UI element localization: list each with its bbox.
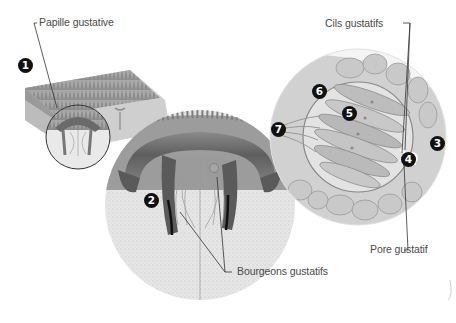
- marker-3: 3: [430, 136, 445, 151]
- label-cils-gustatifs: Cils gustatifs: [325, 17, 383, 29]
- marker-7: 7: [271, 122, 286, 137]
- label-bourgeons-gustatifs: Bourgeons gustatifs: [237, 265, 328, 277]
- marker-4: 4: [401, 152, 416, 167]
- label-pore-gustatif: Pore gustatif: [370, 243, 428, 255]
- marker-1: 1: [18, 58, 33, 73]
- taste-bud-cross-section: [270, 49, 450, 233]
- diagram-illustration: [0, 0, 456, 323]
- marker-2: 2: [144, 193, 159, 208]
- label-papille-gustative: Papille gustative: [39, 16, 114, 28]
- marker-6: 6: [312, 84, 327, 99]
- diagram-canvas: Papille gustative Cils gustatifs Pore gu…: [0, 0, 456, 323]
- marker-5: 5: [342, 106, 357, 121]
